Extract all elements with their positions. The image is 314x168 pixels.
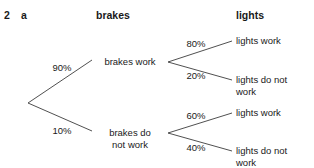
node-label-lights-not-work-lower: lights do not work — [236, 145, 314, 168]
node-label-brakes-not-work-line-2: not work — [95, 139, 165, 151]
node-label-brakes-work: brakes work — [95, 56, 165, 68]
node-label-lights-work-upper: lights work — [236, 35, 314, 47]
node-label-lights-not-work-lower-line-1: lights do not — [236, 145, 314, 157]
node-label-lights-work-lower-line-1: lights work — [236, 107, 314, 119]
probability-label-lights-work-upper: 80% — [178, 38, 214, 49]
node-label-lights-not-work-upper-line-1: lights do not — [236, 74, 314, 86]
node-label-brakes-not-work-line-1: brakes do — [95, 127, 165, 139]
node-label-lights-not-work-upper-line-2: work — [236, 86, 314, 98]
probability-label-lights-work-lower: 60% — [178, 110, 214, 121]
probability-label-lights-not-work-upper: 20% — [178, 70, 214, 81]
node-label-brakes-work-line-1: brakes work — [95, 56, 165, 68]
node-label-lights-work-upper-line-1: lights work — [236, 35, 314, 47]
node-label-brakes-not-work: brakes do not work — [95, 127, 165, 151]
node-label-lights-not-work-lower-line-2: work — [236, 157, 314, 168]
node-label-lights-not-work-upper: lights do not work — [236, 74, 314, 98]
probability-label-brakes-not-work: 10% — [44, 125, 80, 136]
probability-label-lights-not-work-lower: 40% — [178, 142, 214, 153]
node-label-lights-work-lower: lights work — [236, 107, 314, 119]
probability-tree-diagram: 2 a brakes lights 90% 10% 80% 20% 60% 40… — [0, 0, 314, 168]
probability-label-brakes-work: 90% — [44, 62, 80, 73]
